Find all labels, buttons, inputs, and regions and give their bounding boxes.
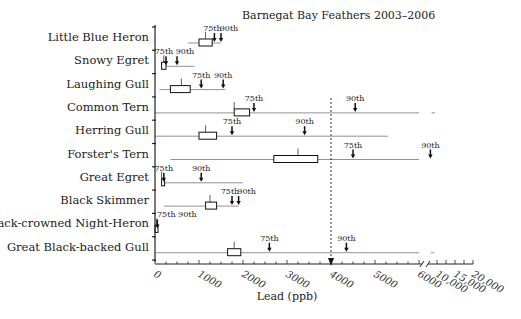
percentile-label: 75th xyxy=(260,234,279,243)
percentile-label: 90th xyxy=(176,47,195,56)
percentile-label: 90th xyxy=(337,234,356,243)
row-black-crowned-night-heron: Black-crowned Night-Heron75th 90th xyxy=(0,210,197,232)
x-tick-label: 1000 xyxy=(196,268,224,291)
category-label: Black-crowned Night-Heron xyxy=(0,216,150,230)
x-tick-label: 2000 xyxy=(239,268,268,291)
boxplot-chart: Barnegat Bay Feathers 2003–2006 Little B… xyxy=(0,0,521,319)
x-tick-label: 5000 xyxy=(372,268,400,291)
x-tick-label: 3000 xyxy=(284,268,312,291)
box xyxy=(274,156,318,163)
category-label: Laughing Gull xyxy=(66,77,149,91)
percentile-label: 75th xyxy=(344,141,363,150)
percentile-label: 90th xyxy=(421,141,440,150)
percentile-label: 90th xyxy=(295,117,314,126)
box xyxy=(170,86,190,93)
category-label: Great Black-backed Gull xyxy=(7,240,149,254)
row-common-tern: Common Tern75th90th xyxy=(67,94,435,116)
row-forster-s-tern: Forster's Tern75th90th xyxy=(67,141,439,163)
box xyxy=(228,249,241,256)
box xyxy=(234,109,249,116)
x-tick-label: 4000 xyxy=(327,268,356,291)
category-label: Herring Gull xyxy=(75,123,149,137)
category-label: Great Egret xyxy=(80,170,150,184)
percentile-label: 90th xyxy=(220,24,239,33)
category-label: Forster's Tern xyxy=(67,147,149,161)
percentile-label: 75th xyxy=(155,47,174,56)
percentile-label: 90th xyxy=(214,71,233,80)
percentile-label: 75th xyxy=(155,164,174,173)
row-black-skimmer: Black Skimmer75th90th xyxy=(60,187,256,209)
percentile-label: 90th xyxy=(192,164,211,173)
axes: 010002000300040005000600010,00015,00020,… xyxy=(152,25,506,296)
row-great-egret: Great Egret75th90th xyxy=(80,164,243,186)
percentile-label: 75th xyxy=(192,71,211,80)
category-label: Little Blue Heron xyxy=(48,30,150,44)
category-label: Snowy Egret xyxy=(74,53,149,67)
box xyxy=(199,39,212,46)
category-label: Black Skimmer xyxy=(60,193,149,207)
chart-title: Barnegat Bay Feathers 2003–2006 xyxy=(242,9,435,22)
box xyxy=(199,132,217,139)
box xyxy=(206,202,217,209)
x-axis-label: Lead (ppb) xyxy=(257,290,318,303)
row-laughing-gull: Laughing Gull75th90th xyxy=(66,71,232,93)
row-little-blue-heron: Little Blue Heron75th90th xyxy=(48,24,239,46)
row-snowy-egret: Snowy Egret75th90th xyxy=(74,47,194,69)
category-label: Common Tern xyxy=(67,100,150,114)
percentile-label: 90th xyxy=(237,187,256,196)
x-tick-label: 0 xyxy=(152,268,164,281)
plot-rows: Little Blue Heron75th90thSnowy Egret75th… xyxy=(0,24,440,256)
percentile-label: 75th 90th xyxy=(157,210,197,219)
row-great-black-backed-gull: Great Black-backed Gull75th90th xyxy=(7,234,434,256)
percentile-label: 75th xyxy=(245,94,264,103)
percentile-label: 90th xyxy=(346,94,365,103)
percentile-label: 75th xyxy=(223,117,242,126)
row-herring-gull: Herring Gull75th90th xyxy=(75,117,388,139)
